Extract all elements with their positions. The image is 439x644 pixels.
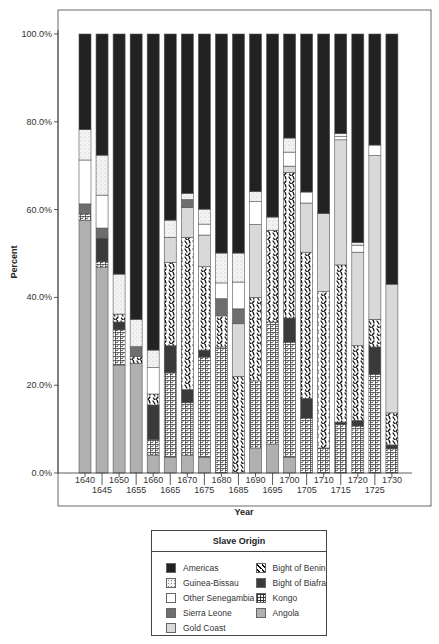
bar-segment-bight-of-benin <box>232 376 244 473</box>
y-tick-label: 100.0% <box>21 29 52 39</box>
bar-1680 <box>215 34 227 473</box>
legend-label: Americas <box>183 563 218 573</box>
bar-segment-guinea-bissau <box>130 319 142 346</box>
legend-label: Angola <box>273 608 299 618</box>
bar-segment-bight-of-benin <box>284 172 296 318</box>
bar-segment-gold-coast <box>250 225 262 298</box>
bar-segment-guinea-bissau <box>181 193 193 199</box>
bar-segment-americas <box>181 34 193 193</box>
bar-segment-kongo <box>215 347 227 473</box>
bar-segment-americas <box>267 34 279 217</box>
bar-segment-americas <box>147 34 159 350</box>
x-tick-label: 1650 <box>109 475 129 485</box>
legend-label: Bight of Biafra <box>273 578 326 588</box>
bar-segment-kongo <box>181 403 193 456</box>
bar-segment-bight-of-benin <box>386 413 398 445</box>
legend-swatch <box>166 608 176 618</box>
bar-segment-bight-of-benin <box>318 292 330 448</box>
bar-segment-americas <box>113 34 125 274</box>
bar-segment-other-senegambia <box>301 192 313 203</box>
bar-segment-gold-coast <box>301 203 313 252</box>
bar-segment-kongo <box>318 448 330 473</box>
bar-1695 <box>267 34 279 473</box>
bars <box>79 34 398 473</box>
bar-segment-kongo <box>250 381 262 448</box>
bar-segment-americas <box>369 34 381 145</box>
bar-segment-kongo <box>79 214 91 220</box>
bar-segment-bight-of-benin <box>181 237 193 389</box>
bar-segment-gold-coast <box>369 156 381 320</box>
x-tick-label: 1725 <box>365 485 385 495</box>
bar-segment-kongo <box>113 330 125 365</box>
legend-swatch <box>166 593 176 603</box>
legend-label: Sierra Leone <box>183 608 232 618</box>
bar-1720 <box>352 34 364 473</box>
bar-1705 <box>301 34 313 473</box>
bar-segment-americas <box>215 34 227 253</box>
legend-swatch <box>256 608 266 618</box>
bar-1710 <box>318 34 330 473</box>
bar-segment-guinea-bissau <box>113 274 125 314</box>
bar-segment-gold-coast <box>198 235 210 267</box>
bar-segment-americas <box>130 34 142 319</box>
bar-segment-bight-of-biafra <box>147 405 159 440</box>
x-tick-label: 1670 <box>177 475 197 485</box>
bar-segment-bight-of-biafra <box>369 347 381 374</box>
bar-1665 <box>164 34 176 473</box>
bar-segment-guinea-bissau <box>215 253 227 283</box>
x-tick-label: 1710 <box>314 475 334 485</box>
bar-segment-bight-of-benin <box>250 297 262 380</box>
bar-segment-bight-of-biafra <box>198 350 210 357</box>
legend-item-guinea-bissau: Guinea-Bissau <box>166 577 256 589</box>
bar-segment-guinea-bissau <box>147 350 159 368</box>
x-tick-label: 1640 <box>75 475 95 485</box>
bar-segment-angola <box>147 455 159 473</box>
x-tick-label: 1665 <box>160 485 180 495</box>
bar-segment-other-senegambia <box>250 202 262 225</box>
x-tick-label: 1730 <box>382 475 402 485</box>
bar-segment-gold-coast <box>386 284 398 413</box>
bar-1640 <box>79 34 91 473</box>
bar-segment-kongo <box>147 440 159 455</box>
bar-segment-angola <box>130 363 142 473</box>
bar-segment-bight-of-benin <box>147 394 159 405</box>
bar-segment-kongo <box>198 357 210 457</box>
x-tick-label: 1715 <box>331 485 351 495</box>
stacked-bar-chart: 0.0%20.0%40.0%60.0%80.0%100.0% 164016451… <box>0 0 439 530</box>
y-axis-title: Percent <box>9 245 19 278</box>
legend-column-right: Bight of BeninBight of BiafraKongoAngola <box>256 562 326 634</box>
bar-segment-kongo <box>164 373 176 457</box>
bar-segment-gold-coast <box>318 214 330 292</box>
legend-label: Bight of Benin <box>273 563 326 573</box>
bar-segment-guinea-bissau <box>232 253 244 282</box>
bar-segment-bight-of-benin <box>164 262 176 345</box>
bar-segment-bight-of-benin <box>301 252 313 398</box>
legend-column-left: AmericasGuinea-BissauOther SenegambiaSie… <box>166 562 256 634</box>
bar-segment-bight-of-biafra <box>96 238 108 262</box>
bar-segment-americas <box>198 34 210 209</box>
bar-segment-angola <box>267 444 279 473</box>
bar-segment-bight-of-biafra <box>284 318 296 342</box>
x-axis: 1640164516501655166016651670167516801685… <box>58 473 412 495</box>
bar-1685 <box>232 34 244 473</box>
bar-segment-kongo <box>386 449 398 473</box>
bar-segment-guinea-bissau <box>250 192 262 202</box>
legend-label: Other Senegambia <box>183 593 254 603</box>
y-tick-label: 40.0% <box>26 292 52 302</box>
bar-segment-angola <box>164 457 176 473</box>
bar-segment-guinea-bissau <box>96 155 108 195</box>
bar-segment-guinea-bissau <box>79 130 91 160</box>
x-tick-label: 1675 <box>194 485 214 495</box>
bar-segment-gold-coast <box>284 166 296 172</box>
bar-segment-angola <box>113 365 125 473</box>
bar-segment-americas <box>250 34 262 192</box>
legend-item-gold-coast: Gold Coast <box>166 622 256 634</box>
bar-segment-guinea-bissau <box>335 134 347 137</box>
bar-segment-bight-of-benin <box>215 316 227 347</box>
y-tick-label: 20.0% <box>26 380 52 390</box>
bar-segment-guinea-bissau <box>267 217 279 230</box>
x-tick-label: 1720 <box>348 475 368 485</box>
legend-item-americas: Americas <box>166 562 256 574</box>
bar-segment-angola <box>96 267 108 473</box>
bar-segment-bight-of-benin <box>369 319 381 347</box>
